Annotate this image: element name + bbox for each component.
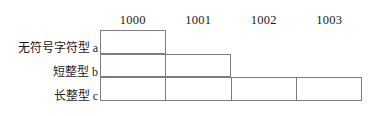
memory-cell-c-1003 [297,78,361,100]
memory-cell-b-1001 [166,55,230,77]
memory-cell-b-1000 [101,55,166,77]
memory-row-b [100,54,231,78]
memory-cell-a-1000 [101,31,165,53]
memory-layout-diagram: 1000 1001 1002 1003 无符号字符型 a 短整型 b 长整型 c [0,0,376,116]
row-label-long-int-c: 长整型 c [0,86,98,104]
row-label-unsigned-char-a: 无符号字符型 a [0,38,98,56]
memory-cell-c-1002 [232,78,297,100]
memory-row-a [100,30,166,54]
address-header-row: 1000 1001 1002 1003 [100,11,362,29]
memory-cell-c-1001 [166,78,231,100]
memory-cell-c-1000 [101,78,166,100]
memory-row-c [100,77,362,101]
memory-cells-grid [100,30,362,101]
row-label-short-int-b: 短整型 b [0,62,98,80]
address-header-1001: 1001 [166,11,232,29]
address-header-1003: 1003 [297,11,363,29]
address-header-1000: 1000 [100,11,166,29]
address-header-1002: 1002 [231,11,297,29]
